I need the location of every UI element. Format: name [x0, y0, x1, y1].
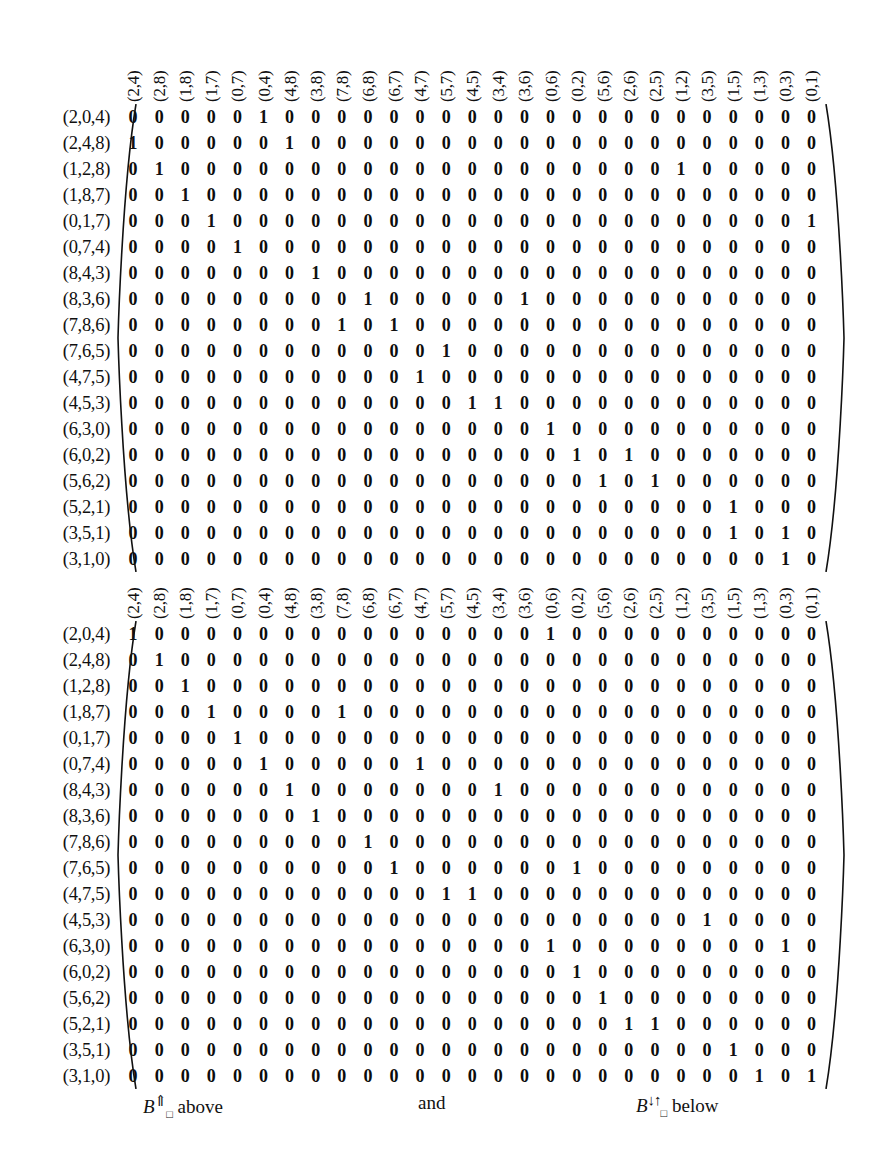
- row-label: (5,2,1): [0, 1011, 120, 1037]
- matrix-cell: 0: [772, 442, 798, 468]
- matrix-cell: 0: [329, 1063, 355, 1089]
- matrix-cell: 0: [433, 234, 459, 260]
- matrix-cell: 0: [120, 803, 146, 829]
- matrix-cell: 0: [746, 104, 772, 130]
- matrix-cell: 0: [772, 130, 798, 156]
- matrix-cell: 0: [746, 1037, 772, 1063]
- matrix-cell: 1: [277, 130, 303, 156]
- matrix-cell: 0: [329, 855, 355, 881]
- matrix-cell: 0: [355, 751, 381, 777]
- matrix-cell: 0: [198, 104, 224, 130]
- matrix-cell: 0: [303, 416, 329, 442]
- matrix-cell: 0: [772, 494, 798, 520]
- matrix-cell: 0: [538, 751, 564, 777]
- matrix-cell: 0: [250, 416, 276, 442]
- matrix-cell: 0: [642, 208, 668, 234]
- matrix-cell: 0: [146, 881, 172, 907]
- matrix-cell: 0: [642, 494, 668, 520]
- caption-middle: and: [418, 1092, 445, 1114]
- matrix-cell: 0: [798, 390, 824, 416]
- matrix-cell: 0: [381, 621, 407, 647]
- matrix-cell: 0: [564, 881, 590, 907]
- matrix-cell: 0: [198, 751, 224, 777]
- matrix-cell: 0: [538, 855, 564, 881]
- row-label: (3,5,1): [0, 520, 120, 546]
- matrix-cell: 0: [616, 364, 642, 390]
- matrix-cell: 1: [459, 881, 485, 907]
- matrix-cell: 0: [172, 286, 198, 312]
- matrix-cell: 0: [433, 777, 459, 803]
- matrix-cell: 0: [746, 520, 772, 546]
- matrix-cell: 0: [564, 647, 590, 673]
- matrix-cell: 0: [146, 468, 172, 494]
- matrix-cell: 1: [564, 959, 590, 985]
- row-label: (8,4,3): [0, 777, 120, 803]
- row-label: (7,6,5): [0, 855, 120, 881]
- matrix-cell: 0: [485, 829, 511, 855]
- column-header-label: (1,2): [673, 587, 690, 619]
- matrix-cell: 0: [407, 933, 433, 959]
- matrix-cell: 0: [355, 725, 381, 751]
- matrix-cell: 0: [120, 855, 146, 881]
- matrix-cell: 0: [538, 1063, 564, 1089]
- matrix-cell: 0: [590, 208, 616, 234]
- matrix-cell: 0: [355, 130, 381, 156]
- matrix-cell: 0: [198, 803, 224, 829]
- matrix-cell: 0: [224, 312, 250, 338]
- matrix-cell: 0: [720, 234, 746, 260]
- matrix-cell: 0: [485, 416, 511, 442]
- matrix-cell: 0: [355, 699, 381, 725]
- matrix-cell: 0: [172, 933, 198, 959]
- matrix-cell: 0: [407, 1037, 433, 1063]
- matrix-cell: 0: [616, 673, 642, 699]
- matrix-cell: 0: [303, 933, 329, 959]
- matrix-cell: 0: [433, 494, 459, 520]
- column-header: (1,5): [720, 545, 746, 621]
- matrix-cell: 0: [433, 182, 459, 208]
- matrix-cell: 0: [303, 312, 329, 338]
- matrix-cell: 0: [250, 985, 276, 1011]
- matrix-cell: 0: [250, 1037, 276, 1063]
- matrix-cell: 0: [329, 1011, 355, 1037]
- column-header: (5,7): [433, 545, 459, 621]
- matrix-cell: 1: [381, 855, 407, 881]
- matrix-cell: 0: [355, 907, 381, 933]
- matrix-cell: 0: [146, 1063, 172, 1089]
- matrix-cell: 0: [720, 647, 746, 673]
- matrix-cell: 0: [538, 907, 564, 933]
- column-header-label: (1,3): [751, 70, 768, 102]
- matrix-cell: 0: [798, 907, 824, 933]
- matrix-cell: 1: [277, 777, 303, 803]
- matrix-cell: 0: [224, 881, 250, 907]
- matrix-cell: 0: [746, 494, 772, 520]
- matrix-cell: 0: [329, 234, 355, 260]
- matrix-cell: 0: [250, 338, 276, 364]
- matrix-cell: 0: [303, 1037, 329, 1063]
- matrix-cell: 0: [459, 494, 485, 520]
- matrix-cell: 0: [329, 959, 355, 985]
- matrix-cell: 0: [146, 416, 172, 442]
- matrix-cell: 0: [355, 156, 381, 182]
- matrix-cell: 0: [694, 803, 720, 829]
- matrix-cell: 0: [433, 468, 459, 494]
- matrix-cell: 0: [303, 985, 329, 1011]
- matrix-cell: 0: [485, 442, 511, 468]
- row-label: (6,0,2): [0, 959, 120, 985]
- matrix-cell: 0: [277, 933, 303, 959]
- row-label: (1,2,8): [0, 156, 120, 182]
- matrix-cell: 0: [198, 907, 224, 933]
- matrix-cell: 0: [538, 881, 564, 907]
- matrix-cell: 0: [564, 933, 590, 959]
- matrix-cell: 0: [746, 777, 772, 803]
- matrix-cell: 0: [642, 907, 668, 933]
- matrix-cell: 0: [381, 520, 407, 546]
- column-header-label: (4,8): [282, 70, 299, 102]
- matrix-cell: 0: [277, 520, 303, 546]
- matrix-cell: 0: [616, 985, 642, 1011]
- matrix-cell: 0: [277, 286, 303, 312]
- matrix-cell: 0: [746, 621, 772, 647]
- matrix-cell: 0: [198, 725, 224, 751]
- matrix-cell: 0: [120, 520, 146, 546]
- column-header: (2,4): [120, 545, 146, 621]
- matrix-cell: 0: [224, 855, 250, 881]
